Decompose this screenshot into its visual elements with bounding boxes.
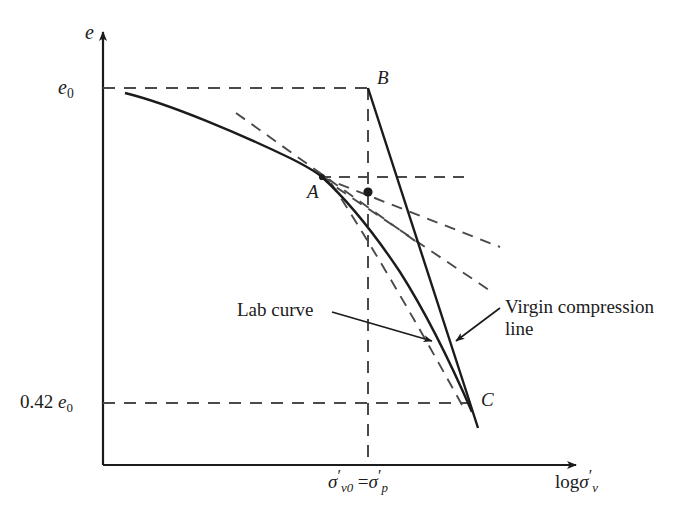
secondary-lab-branch xyxy=(331,183,462,405)
lab-curve-path xyxy=(125,93,472,412)
figure-root: e e0 0.42 e0 A B C Lab curve Virgin comp… xyxy=(0,0,675,520)
sigma-x-subscript: v xyxy=(592,480,598,495)
point-label-b: B xyxy=(377,68,389,87)
annotation-virgin-compression-line: Virgin compression line xyxy=(505,296,655,341)
sigma-p-subscript: p xyxy=(381,480,387,495)
y-tick-label-042e0: 0.42 e0 xyxy=(20,392,73,411)
bisector-vertex-marker xyxy=(363,187,372,196)
e0-subscript: 0 xyxy=(67,86,74,101)
sigma-v0-symbol: σ xyxy=(328,471,337,492)
042-prefix: 0.42 xyxy=(20,391,53,412)
e0-symbol: e xyxy=(58,76,67,98)
lab-curve-leader xyxy=(332,312,432,341)
point-label-a: A xyxy=(307,182,319,201)
compression-curve-diagram xyxy=(0,0,675,520)
sigma-p-symbol: σ xyxy=(369,471,378,492)
virgin-compression-line-path xyxy=(368,88,478,428)
sigma-x-symbol: σ xyxy=(579,471,588,492)
virgin-compression-line-leader xyxy=(456,308,500,341)
x-axis-label: logσ′v xyxy=(555,472,598,491)
annotation-lab-curve: Lab curve xyxy=(237,300,313,319)
y-axis-label: e xyxy=(85,22,94,42)
data-curves xyxy=(125,88,478,428)
x-tick-label-sigma-p: σ′v0 =σ′p xyxy=(328,472,388,491)
042-subscript: 0 xyxy=(66,400,72,415)
point-label-c: C xyxy=(481,390,494,409)
log-prefix: log xyxy=(555,471,579,492)
axis-group xyxy=(103,32,576,465)
reference-lines xyxy=(103,88,470,465)
annotation-arrows xyxy=(332,308,500,341)
point-a-marker xyxy=(319,174,325,180)
y-tick-label-e0: e0 xyxy=(58,77,74,97)
equals-sign: = xyxy=(358,471,369,492)
sigma-v0-subscript: v0 xyxy=(341,480,353,495)
